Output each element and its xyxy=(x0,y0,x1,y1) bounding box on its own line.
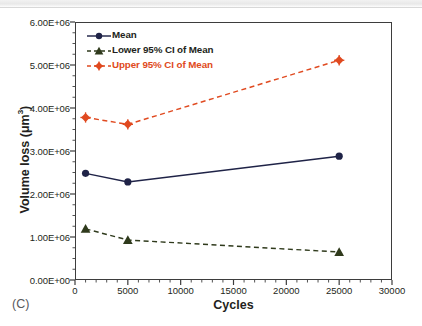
legend-marker-mean-icon xyxy=(86,28,112,40)
y-axis-tick-label: 0.00E+00 xyxy=(6,275,70,286)
x-axis-tick-label: 0 xyxy=(72,285,77,296)
data-point-marker xyxy=(96,33,102,39)
y-axis-tick-label: 6.00E+06 xyxy=(6,17,70,28)
x-axis-tick-label: 10000 xyxy=(167,285,193,296)
x-axis-tick-label: 20000 xyxy=(273,285,299,296)
figure-panel-c: 0.00E+001.00E+062.00E+063.00E+064.00E+06… xyxy=(0,0,422,326)
y-axis-tick-labels: 0.00E+001.00E+062.00E+063.00E+064.00E+06… xyxy=(0,0,70,326)
legend-item-upper-ci[interactable]: Upper 95% CI of Mean xyxy=(86,58,213,70)
y-axis-tick-label: 5.00E+06 xyxy=(6,60,70,71)
legend-marker-lower-ci-icon xyxy=(86,43,112,55)
legend-label-upper-ci: Upper 95% CI of Mean xyxy=(112,59,213,70)
x-axis-tick-label: 15000 xyxy=(220,285,246,296)
x-axis-tick-label: 5000 xyxy=(117,285,138,296)
x-axis-tick-label: 30000 xyxy=(379,285,405,296)
y-axis-title: Volume loss (μm3) xyxy=(16,80,31,240)
chart-legend: Mean Lower 95% CI of Mean Upper 95% CI o… xyxy=(86,28,213,70)
legend-marker-upper-ci-icon xyxy=(86,58,112,70)
panel-label: (C) xyxy=(12,297,29,311)
x-axis-tick-label: 25000 xyxy=(326,285,352,296)
legend-label-mean: Mean xyxy=(112,29,137,40)
legend-item-lower-ci[interactable]: Lower 95% CI of Mean xyxy=(86,43,213,55)
x-axis-title: Cycles xyxy=(75,298,392,312)
legend-item-mean[interactable]: Mean xyxy=(86,28,213,40)
data-point-marker xyxy=(94,61,103,70)
legend-label-lower-ci: Lower 95% CI of Mean xyxy=(112,44,213,55)
